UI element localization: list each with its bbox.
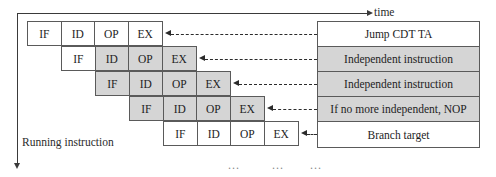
stage-cell-if-row5: IF (164, 122, 198, 145)
stage-cell-op-row1: OP (95, 22, 129, 45)
dependency-dashed-line-2 (205, 59, 317, 60)
stage-cell-id-row5: ID (198, 122, 232, 145)
stage-cell-id-row2: ID (96, 47, 130, 70)
pipeline-row-3: IFIDOPEX (95, 71, 231, 96)
instruction-row-1: Jump CDT TA (318, 22, 479, 47)
stage-cell-ex-row3: EX (197, 72, 230, 95)
instruction-row-3: Independent instruction (318, 72, 479, 97)
instruction-axis-line (17, 13, 18, 165)
continuation-ellipsis-3: ... (310, 158, 322, 173)
stage-cell-id-row1: ID (62, 22, 96, 45)
instruction-row-4: If no more independent, NOP (318, 97, 479, 122)
time-axis-line (17, 13, 369, 14)
stage-cell-if-row1: IF (28, 22, 62, 45)
stage-cell-op-row4: OP (197, 97, 231, 120)
stage-cell-op-row5: OP (231, 122, 265, 145)
stage-cell-id-row3: ID (130, 72, 164, 95)
time-axis-label: time (374, 6, 394, 18)
pipeline-row-2: IFIDOPEX (61, 46, 197, 71)
continuation-ellipsis-2: ... (272, 158, 284, 173)
pipeline-row-5: IFIDOPEX (163, 121, 299, 146)
stage-cell-ex-row2: EX (163, 47, 196, 70)
instruction-row-2: Independent instruction (318, 47, 479, 72)
dependency-dashed-line-4 (273, 109, 317, 110)
dependency-dashed-line-5 (307, 134, 317, 135)
stage-cell-op-row2: OP (129, 47, 163, 70)
pipeline-branch-delay-diagram: time Running instruction IFIDOPEXIFIDOPE… (0, 0, 496, 177)
pipeline-row-4: IFIDOPEX (129, 96, 265, 121)
stage-cell-ex-row1: EX (129, 22, 162, 45)
dependency-dashed-line-1 (171, 34, 317, 35)
instruction-row-5: Branch target (318, 122, 479, 147)
instruction-axis-label: Running instruction (22, 136, 114, 148)
instruction-axis-arrowhead (14, 163, 20, 169)
dependency-dashed-line-3 (239, 84, 317, 85)
stage-cell-if-row4: IF (130, 97, 164, 120)
stage-cell-op-row3: OP (163, 72, 197, 95)
instruction-sequence-table: Jump CDT TAIndependent instructionIndepe… (317, 21, 480, 148)
stage-cell-id-row4: ID (164, 97, 198, 120)
pipeline-row-1: IFIDOPEX (27, 21, 163, 46)
continuation-ellipsis-1: ... (228, 158, 240, 173)
stage-cell-ex-row4: EX (231, 97, 264, 120)
stage-cell-if-row2: IF (62, 47, 96, 70)
stage-cell-ex-row5: EX (265, 122, 298, 145)
stage-cell-if-row3: IF (96, 72, 130, 95)
time-axis-arrowhead (367, 10, 373, 16)
